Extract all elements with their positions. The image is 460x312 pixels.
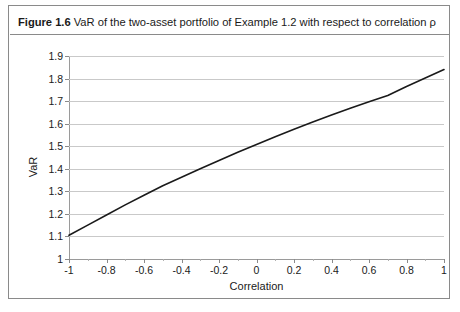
x-tick-major [369,259,370,263]
y-tick-label: 1.4 [23,164,63,174]
x-tick-label: 0.8 [399,265,414,276]
x-tick-major [219,259,220,263]
x-axis-label: Correlation [69,280,444,292]
x-tick-label: -0.4 [172,265,190,276]
y-tick-label: 1 [23,254,63,264]
y-tick-label: 1.5 [23,141,63,151]
x-tick-label: -0.2 [210,265,228,276]
y-tick-label: 1.2 [23,209,63,219]
x-tick-label: -0.6 [135,265,153,276]
plot-area: 11.11.21.31.41.51.61.71.81.9 -1-0.8-0.6-… [69,56,444,259]
x-tick-label: -0.8 [97,265,115,276]
figure-frame: Figure 1.6 VaR of the two-asset portfoli… [8,5,450,299]
x-tick-label: 0.2 [287,265,302,276]
figure-caption-label: Figure 1.6 [18,16,71,28]
x-tick-major [69,259,70,263]
x-tick-minor [275,259,276,261]
y-tick-label: 1.8 [23,74,63,84]
x-tick-label: 0.6 [362,265,377,276]
x-tick-minor [350,259,351,261]
x-tick-major [107,259,108,263]
x-tick-label: 1 [441,265,447,276]
x-tick-label: 0 [254,265,260,276]
x-tick-label: -1 [64,265,73,276]
y-tick-label: 1.1 [23,231,63,241]
x-tick-major [144,259,145,263]
x-tick-minor [425,259,426,261]
x-tick-major [332,259,333,263]
x-tick-label: 0.4 [324,265,339,276]
x-tick-minor [388,259,389,261]
y-tick-label: 1.3 [23,186,63,196]
figure-caption-text: VaR of the two-asset portfolio of Exampl… [74,16,436,28]
x-tick-minor [238,259,239,261]
x-tick-minor [200,259,201,261]
x-tick-major [294,259,295,263]
x-tick-minor [125,259,126,261]
x-tick-major [257,259,258,263]
y-tick-label: 1.6 [23,119,63,129]
y-tick-label: 1.7 [23,96,63,106]
x-tick-major [182,259,183,263]
x-tick-minor [163,259,164,261]
figure-caption: Figure 1.6 VaR of the two-asset portfoli… [18,15,442,29]
y-tick-label: 1.9 [23,51,63,61]
chart-container: VaR 11.11.21.31.41.51.61.71.81.9 -1-0.8-… [9,35,451,299]
x-tick-major [444,259,445,263]
var-curve [69,56,444,259]
x-tick-minor [88,259,89,261]
x-tick-major [407,259,408,263]
x-tick-minor [313,259,314,261]
